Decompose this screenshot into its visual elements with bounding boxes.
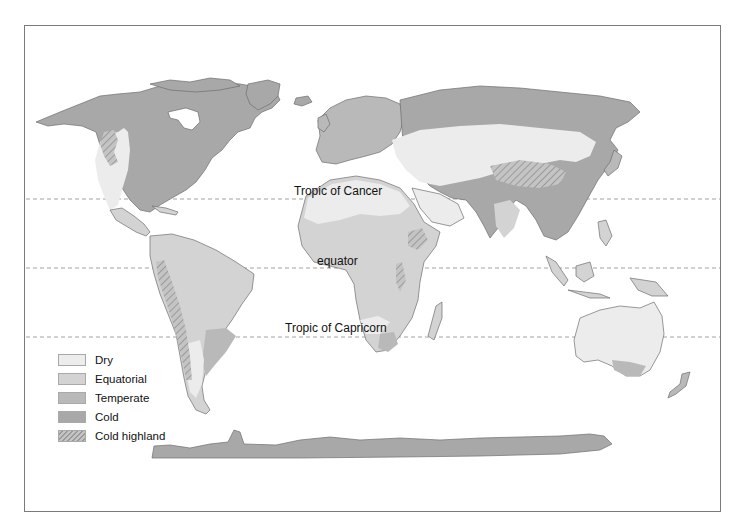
legend-item-dry: Dry [58,350,165,369]
central-america [110,208,150,236]
equatorial-swatch [58,373,86,385]
sumatra [546,256,568,286]
south-africa-temperate [378,332,398,352]
tropic-of-capricorn-label: Tropic of Capricorn [285,321,387,335]
north-america [36,82,280,212]
new-zealand [668,372,690,398]
legend-item-equatorial: Equatorial [58,369,165,388]
legend-item-cold: Cold [58,407,165,426]
new-guinea [630,278,668,296]
legend-item-temperate: Temperate [58,388,165,407]
legend-label: Equatorial [95,373,147,385]
madagascar [428,302,442,340]
philippines [598,220,612,246]
south-america [150,234,254,414]
south-asia-zone [494,200,520,238]
legend-label: Temperate [95,392,149,404]
borneo [576,262,594,282]
europe [316,96,404,164]
legend-label: Cold highland [95,430,165,442]
java [568,290,610,298]
cold-highland-swatch [58,430,86,442]
caribbean-islands [152,206,178,215]
legend-item-cold-highland: Cold highland [58,426,165,445]
legend: Dry Equatorial Temperate Cold Cold highl… [58,350,165,445]
legend-label: Dry [95,354,113,366]
legend-label: Cold [95,411,119,423]
dry-swatch [58,354,86,366]
world-climate-map [0,0,742,530]
tropic-of-cancer-label: Tropic of Cancer [294,184,382,198]
south-america-temperate-zone [202,328,236,376]
antarctica [152,430,612,458]
iceland [294,96,312,106]
temperate-swatch [58,392,86,404]
equator-label: equator [317,254,358,268]
cold-swatch [58,411,86,423]
